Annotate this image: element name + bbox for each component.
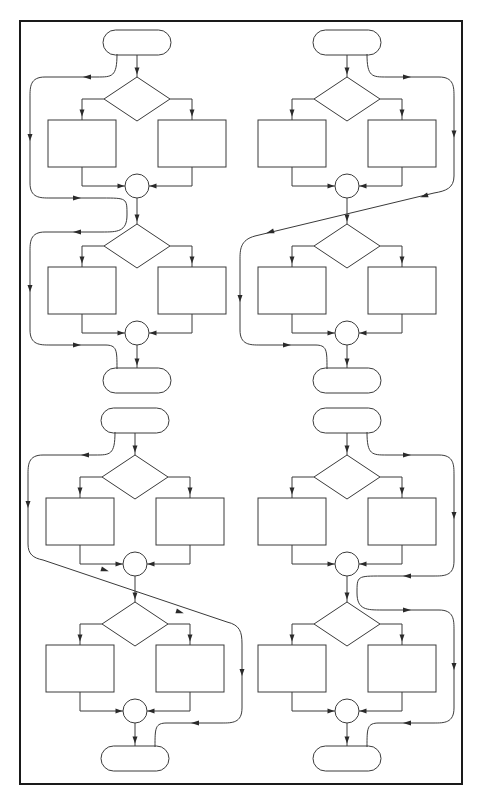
arrowhead-icon bbox=[191, 721, 199, 726]
flowchart-panel-bottom-right bbox=[258, 408, 457, 771]
arrowhead-icon bbox=[150, 331, 157, 336]
branch-line-right bbox=[380, 477, 402, 498]
connector-circle bbox=[123, 552, 147, 576]
arrowhead-icon bbox=[80, 110, 85, 117]
arrowhead-icon bbox=[118, 184, 125, 189]
arrowhead-icon bbox=[290, 488, 295, 495]
arrowhead-icon bbox=[83, 75, 91, 80]
arrowhead-icon bbox=[403, 608, 411, 613]
arrowhead-icon bbox=[240, 669, 245, 676]
arrowhead-icon bbox=[328, 562, 335, 567]
if-then-else-1 bbox=[48, 77, 226, 198]
decision-diamond bbox=[104, 77, 170, 121]
arrowhead-icon bbox=[360, 184, 367, 189]
end-terminal bbox=[101, 746, 169, 771]
decision-diamond bbox=[314, 77, 380, 121]
decision-diamond bbox=[104, 224, 170, 268]
connector-circle bbox=[125, 321, 149, 345]
decision-diamond bbox=[314, 602, 380, 646]
merge-line-right bbox=[149, 167, 192, 186]
arrowhead-icon bbox=[452, 131, 457, 138]
branch-line-left bbox=[82, 246, 104, 267]
arrowhead-icon bbox=[28, 285, 33, 292]
branch-line-right bbox=[170, 246, 192, 267]
arrowhead-icon bbox=[345, 215, 350, 222]
arrowhead-icon bbox=[26, 501, 31, 508]
merge-line-right bbox=[359, 167, 402, 186]
branch-line-left bbox=[82, 99, 104, 120]
arrowhead-icon bbox=[403, 75, 411, 80]
process-box-left bbox=[48, 267, 116, 314]
arrowhead-icon bbox=[290, 635, 295, 642]
arrowhead-icon bbox=[345, 68, 350, 75]
arrowhead-icon bbox=[345, 446, 350, 453]
arrowhead-icon bbox=[175, 608, 184, 615]
branch-line-right bbox=[380, 624, 402, 645]
merge-line-left bbox=[292, 314, 335, 333]
branch-line-right bbox=[168, 624, 190, 645]
arrowhead-icon bbox=[73, 343, 81, 348]
arrowhead-icon bbox=[400, 110, 405, 117]
process-box-right bbox=[156, 498, 224, 545]
arrowhead-icon bbox=[190, 110, 195, 117]
arrowhead-icon bbox=[81, 453, 89, 458]
arrowhead-icon bbox=[78, 635, 83, 642]
arrowhead-icon bbox=[133, 737, 138, 744]
branch-line-right bbox=[168, 477, 190, 498]
arrowhead-icon bbox=[452, 512, 457, 519]
process-box-left bbox=[258, 645, 326, 692]
arrowhead-icon bbox=[345, 359, 350, 366]
panels-group bbox=[26, 30, 457, 771]
process-box-right bbox=[156, 645, 224, 692]
arrowhead-icon bbox=[400, 257, 405, 264]
merge-line-left bbox=[80, 692, 123, 711]
flowchart-panel-bottom-left bbox=[26, 408, 245, 771]
if-then-else-1 bbox=[258, 77, 436, 198]
decision-diamond bbox=[314, 224, 380, 268]
branch-line-right bbox=[380, 246, 402, 267]
arrowhead-icon bbox=[73, 230, 81, 235]
arrowhead-icon bbox=[328, 184, 335, 189]
merge-line-left bbox=[82, 314, 125, 333]
merge-line-left bbox=[292, 167, 335, 186]
merge-line-right bbox=[359, 545, 402, 564]
arrowhead-icon bbox=[400, 488, 405, 495]
flowchart-panel-top-right bbox=[238, 30, 457, 393]
process-box-left bbox=[258, 120, 326, 167]
arrowhead-icon bbox=[78, 488, 83, 495]
process-box-left bbox=[258, 498, 326, 545]
arrowhead-icon bbox=[238, 295, 243, 302]
arrowhead-icon bbox=[400, 635, 405, 642]
arrowhead-icon bbox=[116, 562, 123, 567]
arrowhead-icon bbox=[148, 562, 155, 567]
arrowhead-icon bbox=[116, 709, 123, 714]
flowchart-diagram bbox=[0, 0, 479, 798]
arrowhead-icon bbox=[290, 110, 295, 117]
connector-circle bbox=[125, 174, 149, 198]
connector-circle bbox=[335, 552, 359, 576]
decision-diamond bbox=[314, 455, 380, 499]
arrowhead-icon bbox=[360, 709, 367, 714]
start-terminal bbox=[313, 30, 381, 55]
arrowhead-icon bbox=[265, 228, 274, 235]
merge-line-left bbox=[292, 545, 335, 564]
arrowhead-icon bbox=[133, 593, 138, 600]
if-then-else-2 bbox=[46, 602, 224, 723]
arrowhead-icon bbox=[290, 257, 295, 264]
end-terminal bbox=[313, 746, 381, 771]
flowchart-panel-top-left bbox=[28, 30, 227, 393]
arrowhead-icon bbox=[328, 331, 335, 336]
end-terminal bbox=[103, 368, 171, 393]
branch-line-left bbox=[292, 99, 314, 120]
arrowhead-icon bbox=[135, 68, 140, 75]
merge-line-left bbox=[292, 692, 335, 711]
if-then-else-2 bbox=[258, 224, 436, 345]
if-then-else-1 bbox=[258, 455, 436, 576]
merge-line-left bbox=[80, 545, 123, 564]
arrowhead-icon bbox=[283, 343, 291, 348]
process-box-right bbox=[158, 267, 226, 314]
arrowhead-icon bbox=[403, 721, 411, 726]
process-box-left bbox=[46, 498, 114, 545]
process-box-left bbox=[46, 645, 114, 692]
process-box-right bbox=[368, 645, 436, 692]
